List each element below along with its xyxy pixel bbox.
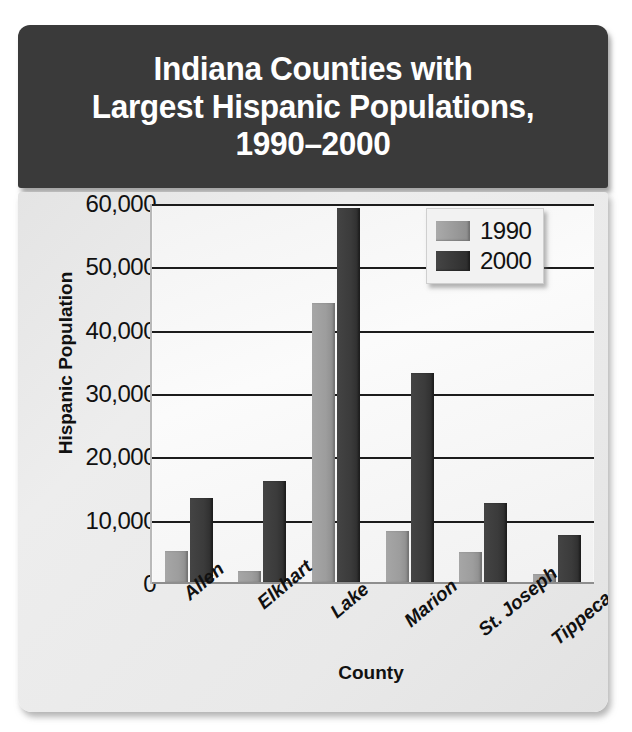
bar-elkhart-1990 bbox=[238, 571, 261, 582]
x-tick-label-lake: Lake bbox=[326, 578, 373, 623]
title-line-3: 1990–2000 bbox=[46, 125, 580, 162]
y-tick-label-20000: 20,000 bbox=[26, 443, 156, 471]
bar-lake-2000 bbox=[337, 208, 360, 582]
legend-entry-2000: 2000 bbox=[436, 246, 531, 276]
y-tick-label-10000: 10,000 bbox=[26, 507, 156, 535]
bar-elkhart-2000 bbox=[263, 481, 286, 582]
legend-label-2000: 2000 bbox=[480, 247, 531, 275]
legend-label-1990: 1990 bbox=[480, 217, 531, 245]
chart-panel: Hispanic Population 0 10,000 20,000 30,0… bbox=[18, 192, 608, 712]
bar-allen-1990 bbox=[165, 551, 188, 582]
title-line-2: Largest Hispanic Populations, bbox=[46, 88, 580, 125]
chart-figure: Indiana Counties with Largest Hispanic P… bbox=[0, 0, 632, 732]
bar-marion-1990 bbox=[386, 531, 409, 582]
y-tick-label-30000: 30,000 bbox=[26, 380, 156, 408]
legend-swatch-icon-1990 bbox=[436, 221, 470, 241]
y-tick-label-0: 0 bbox=[26, 570, 156, 598]
chart-title-banner: Indiana Counties with Largest Hispanic P… bbox=[18, 25, 608, 188]
chart-legend: 1990 2000 bbox=[426, 208, 544, 284]
x-axis-title: County bbox=[150, 662, 592, 684]
bar-group bbox=[165, 204, 213, 582]
bar-st-joseph-2000 bbox=[484, 503, 507, 582]
bar-group bbox=[312, 204, 360, 582]
y-tick-label-40000: 40,000 bbox=[26, 317, 156, 345]
y-tick-label-50000: 50,000 bbox=[26, 253, 156, 281]
y-tick-label-60000: 60,000 bbox=[26, 192, 156, 218]
title-line-1: Indiana Counties with bbox=[46, 50, 580, 87]
bar-group bbox=[238, 204, 286, 582]
bar-lake-1990 bbox=[312, 303, 335, 582]
page-title: Indiana Counties with Largest Hispanic P… bbox=[39, 50, 588, 162]
legend-swatch-icon-2000 bbox=[436, 251, 470, 271]
legend-entry-1990: 1990 bbox=[436, 216, 531, 246]
y-axis-title: Hispanic Population bbox=[55, 253, 77, 473]
bar-marion-2000 bbox=[411, 373, 434, 582]
bar-tippecanoe-2000 bbox=[558, 535, 581, 583]
bar-st-joseph-1990 bbox=[459, 552, 482, 582]
